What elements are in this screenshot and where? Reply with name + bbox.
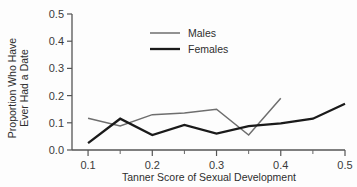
y-tick-label: 0.0 [49,144,64,156]
y-tick-label: 0.4 [49,35,64,47]
y-axis-title-line2: Ever Had a Date [18,49,30,127]
y-axis-title-line1: Proportion Who Have [6,38,18,139]
x-tick-label: 0.5 [337,159,352,171]
y-tick-label: 0.2 [49,90,64,102]
y-tick-label: 0.3 [49,62,64,74]
legend-label-males: Males [188,27,216,39]
chart-figure: 0.00.10.20.30.40.5 0.10.20.30.40.5 Males… [0,0,357,187]
x-tick-label: 0.2 [145,159,160,171]
line-chart: 0.00.10.20.30.40.5 0.10.20.30.40.5 Males… [0,0,357,187]
x-tick-label: 0.4 [273,159,288,171]
y-tick-label: 0.1 [49,117,64,129]
y-tick-label: 0.5 [49,8,64,20]
x-tick-label: 0.1 [80,159,95,171]
x-axis-title: Tanner Score of Sexual Development [122,171,296,183]
x-tick-label: 0.3 [209,159,224,171]
legend-label-females: Females [188,43,228,55]
